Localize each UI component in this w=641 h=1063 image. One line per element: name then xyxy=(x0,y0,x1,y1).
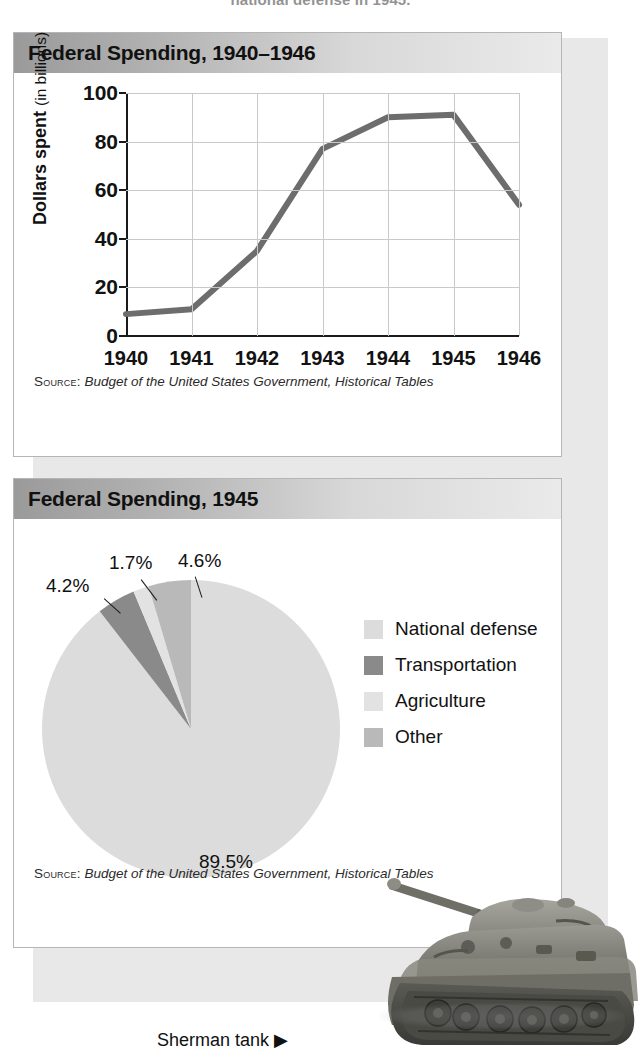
gridline-vertical xyxy=(192,93,193,336)
line-chart-source-prefix: Source: xyxy=(34,374,81,389)
pie-label-agriculture: 1.7% xyxy=(109,552,152,574)
y-tick-mark xyxy=(119,238,126,240)
pie-slices xyxy=(41,579,341,879)
x-tick-label: 1941 xyxy=(169,347,214,370)
pie-chart-source-prefix: Source: xyxy=(34,866,81,881)
line-chart-title: Federal Spending, 1940–1946 xyxy=(28,41,316,65)
pie-chart-legend: National defense Transportation Agricult… xyxy=(364,611,564,755)
y-tick-mark xyxy=(119,141,126,143)
y-tick-label: 80 xyxy=(95,130,118,154)
line-chart-card: Federal Spending, 1940–1946 Dollars spen… xyxy=(13,32,562,457)
tank-caption: Sherman tank ▶ xyxy=(157,1029,288,1051)
y-tick-label: 40 xyxy=(95,227,118,251)
gridline-vertical xyxy=(257,93,258,336)
pie-chart-title: Federal Spending, 1945 xyxy=(28,487,258,511)
y-tick-mark xyxy=(119,335,126,337)
legend-item-agriculture: Agriculture xyxy=(364,683,564,719)
gridline-vertical xyxy=(519,93,520,336)
legend-item-transportation: Transportation xyxy=(364,647,564,683)
pie-label-transportation: 4.2% xyxy=(46,575,89,597)
x-tick-label: 1944 xyxy=(366,347,411,370)
legend-swatch-transportation xyxy=(364,656,383,675)
legend-item-other: Other xyxy=(364,719,564,755)
tank-ground-shadow xyxy=(380,1003,625,1029)
y-tick-label: 0 xyxy=(106,324,118,348)
legend-label-other: Other xyxy=(395,726,443,748)
line-chart-title-bar: Federal Spending, 1940–1946 xyxy=(14,33,561,73)
cut-off-heading: national defense in 1945. xyxy=(0,0,641,5)
legend-label-transportation: Transportation xyxy=(395,654,517,676)
pie-chart-plot-area xyxy=(41,579,341,879)
y-axis-label-main: Dollars spent xyxy=(30,111,50,225)
y-tick-label: 60 xyxy=(95,178,118,202)
legend-swatch-national-defense xyxy=(364,620,383,639)
x-tick-label: 1945 xyxy=(431,347,476,370)
y-tick-mark xyxy=(119,92,126,94)
x-tick-label: 1943 xyxy=(300,347,345,370)
y-tick-mark xyxy=(119,189,126,191)
y-tick-label: 20 xyxy=(95,275,118,299)
y-axis-label-unit: (in billions) xyxy=(32,32,49,106)
gridline-vertical xyxy=(454,93,455,336)
legend-item-national-defense: National defense xyxy=(364,611,564,647)
line-chart-source: Source: Budget of the United States Gove… xyxy=(34,373,464,390)
pie-slice-national-defense xyxy=(42,580,340,878)
x-tick-label: 1942 xyxy=(235,347,280,370)
legend-label-national-defense: National defense xyxy=(395,618,538,640)
legend-swatch-other xyxy=(364,728,383,747)
gridline-vertical xyxy=(323,93,324,336)
x-tick-label: 1946 xyxy=(497,347,542,370)
x-tick-label: 1940 xyxy=(104,347,149,370)
line-chart-plot-area: 0204060801001940194119421943194419451946 xyxy=(126,93,519,336)
gridline-vertical xyxy=(388,93,389,336)
legend-label-agriculture: Agriculture xyxy=(395,690,486,712)
line-chart-body: Dollars spent (in billions) 020406080100… xyxy=(14,73,561,456)
y-tick-label: 100 xyxy=(83,81,118,105)
y-tick-mark xyxy=(119,286,126,288)
pie-label-other: 4.6% xyxy=(178,550,221,572)
legend-swatch-agriculture xyxy=(364,692,383,711)
line-chart-source-text: Budget of the United States Government, … xyxy=(84,374,433,389)
pie-chart-title-bar: Federal Spending, 1945 xyxy=(14,479,561,519)
sherman-tank-photo xyxy=(360,865,641,1045)
line-chart-y-axis-label: Dollars spent (in billions) xyxy=(30,32,51,225)
